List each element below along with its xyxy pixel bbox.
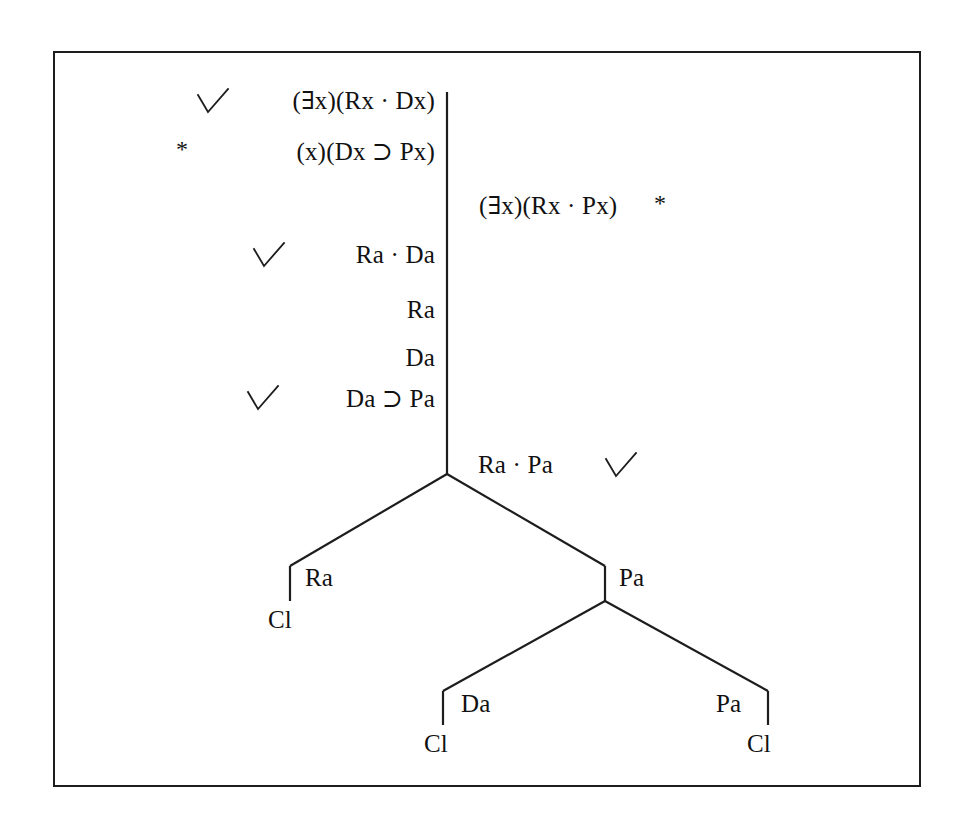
trunk-line-3-text: Ra · Da	[356, 242, 435, 267]
trunk-line-5-text: Da	[405, 345, 435, 370]
diagram-page: (∃x)(Rx · Dx) * (x)(Dx ⊃ Px) Ra · Da Ra …	[0, 0, 968, 827]
node-ra-label: Ra	[305, 565, 333, 590]
node-da-label: Da	[461, 691, 491, 716]
check-mark-icon-line-6	[246, 385, 280, 413]
trunk-line-4-text: Ra	[407, 297, 435, 322]
node-ra-closure: Cl	[268, 607, 292, 632]
trunk-line-1-text: (∃x)(Rx · Dx)	[292, 88, 435, 113]
node-pa-lower-label: Pa	[716, 691, 741, 716]
branch-root-text: Ra · Pa	[478, 452, 553, 477]
right-line-text: (∃x)(Rx · Px)	[479, 193, 617, 218]
star-marker-line-2: *	[176, 136, 188, 163]
check-mark-icon-line-3	[252, 242, 286, 270]
node-da-closure: Cl	[424, 731, 448, 756]
star-marker-right-line: *	[654, 190, 666, 217]
trunk-line-6-text: Da ⊃ Pa	[346, 386, 435, 411]
check-mark-icon-line-1	[196, 88, 230, 116]
node-pa-lower-closure: Cl	[747, 731, 771, 756]
node-pa-upper-label: Pa	[619, 565, 644, 590]
trunk-line-2-text: (x)(Dx ⊃ Px)	[296, 139, 435, 164]
check-mark-icon-branch-root	[604, 452, 638, 480]
